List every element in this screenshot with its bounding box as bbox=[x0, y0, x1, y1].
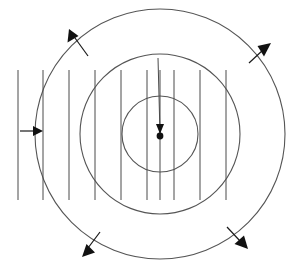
wavefront-diagram bbox=[0, 0, 289, 272]
center-point-source bbox=[157, 133, 164, 140]
figure-root bbox=[0, 0, 289, 272]
